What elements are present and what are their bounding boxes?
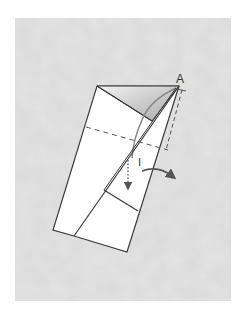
point-label-a: A — [176, 72, 184, 86]
origami-diagram: A I — [0, 0, 246, 312]
step-mark-label: I — [138, 156, 141, 168]
diagram-canvas — [0, 0, 246, 312]
